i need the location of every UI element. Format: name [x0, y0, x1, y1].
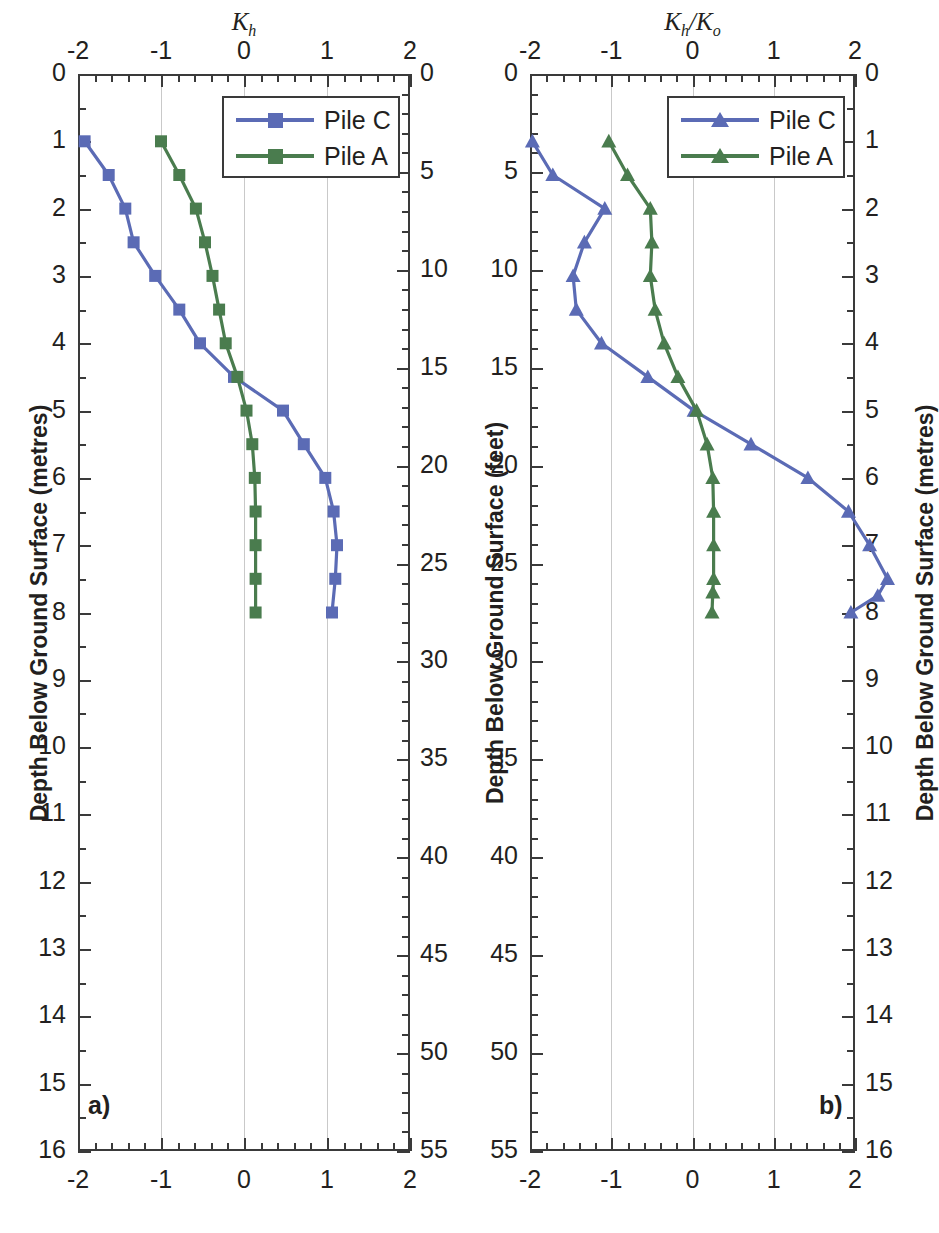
square-marker-icon [268, 149, 283, 164]
data-point-marker [705, 585, 720, 599]
data-point-marker [705, 605, 720, 619]
data-point-marker [173, 169, 185, 181]
triangle-marker-icon [711, 112, 729, 127]
panel-b-legend: Pile CPile A [667, 96, 845, 178]
data-point-marker [194, 337, 206, 349]
panel-a: Kh -2-1012 -2-1012 012345678910111213141… [0, 0, 465, 1233]
data-point-marker [326, 607, 338, 619]
panel-a-data-series [0, 0, 465, 1233]
data-point-marker [277, 405, 289, 417]
panel-b-label: b) [819, 1091, 843, 1120]
panel-b: Kh/Ko -2-1012 -2-1012 051015202530354045… [464, 0, 929, 1233]
data-point-marker [706, 538, 721, 552]
legend-row: Pile A [669, 138, 843, 174]
data-point-marker [207, 270, 219, 282]
data-point-marker [128, 236, 140, 248]
legend-line-triangle-icon [681, 118, 759, 122]
data-point-marker [250, 539, 262, 551]
data-point-marker [79, 135, 91, 147]
data-point-marker [241, 405, 253, 417]
panel-b-left-axis-title: Depth Below Ground Surface (feet) [482, 421, 509, 803]
data-point-marker [800, 470, 815, 484]
data-point-marker [246, 438, 258, 450]
data-point-marker [103, 169, 115, 181]
data-point-marker [706, 571, 721, 585]
data-point-marker [744, 437, 759, 451]
data-point-marker [870, 588, 885, 602]
legend-line-triangle-icon [681, 154, 759, 158]
panel-b-right-axis-title: Depth Below Ground Surface (metres) [912, 404, 939, 821]
data-point-marker [250, 573, 262, 585]
legend-line-square-icon [236, 118, 314, 122]
data-point-marker [199, 236, 211, 248]
legend-label: Pile A [769, 144, 833, 169]
panel-a-label: a) [88, 1091, 110, 1120]
data-point-marker [331, 539, 343, 551]
data-point-marker [648, 302, 663, 316]
data-point-marker [190, 203, 202, 215]
series-pile-a [601, 134, 721, 619]
data-point-marker [173, 304, 185, 316]
panel-a-left-axis-title: Depth Below Ground Surface (metres) [26, 404, 53, 821]
data-point-marker [250, 607, 262, 619]
legend-row: Pile A [224, 138, 398, 174]
data-point-marker [620, 168, 635, 182]
data-point-marker [601, 134, 616, 148]
triangle-marker-icon [711, 148, 729, 163]
legend-row: Pile C [669, 102, 843, 138]
data-point-marker [706, 504, 721, 518]
data-point-marker [597, 201, 612, 215]
panel-a-legend: Pile CPile A [222, 96, 400, 178]
legend-label: Pile A [324, 144, 388, 169]
data-point-marker [213, 304, 225, 316]
data-point-marker [155, 135, 167, 147]
legend-label: Pile C [769, 108, 836, 133]
series-pile-a [155, 135, 262, 618]
data-point-marker [643, 268, 658, 282]
data-point-marker [657, 336, 672, 350]
data-point-marker [328, 506, 340, 518]
square-marker-icon [268, 113, 283, 128]
data-point-marker [319, 472, 331, 484]
data-point-marker [880, 571, 895, 585]
series-pile-c [79, 135, 343, 618]
data-point-marker [670, 369, 685, 383]
data-point-marker [119, 203, 131, 215]
legend-label: Pile C [324, 108, 391, 133]
data-point-marker [231, 371, 243, 383]
data-point-marker [705, 470, 720, 484]
data-point-marker [569, 302, 584, 316]
data-point-marker [577, 235, 592, 249]
data-point-marker [329, 573, 341, 585]
data-point-marker [644, 235, 659, 249]
data-point-marker [250, 506, 262, 518]
data-point-marker [220, 337, 232, 349]
data-point-marker [700, 437, 715, 451]
data-point-marker [545, 168, 560, 182]
data-point-marker [566, 268, 581, 282]
data-point-marker [525, 134, 540, 148]
data-point-marker [298, 438, 310, 450]
legend-row: Pile C [224, 102, 398, 138]
data-point-marker [149, 270, 161, 282]
panel-b-data-series [464, 0, 929, 1233]
data-point-marker [249, 472, 261, 484]
data-point-marker [843, 605, 858, 619]
legend-line-square-icon [236, 154, 314, 158]
